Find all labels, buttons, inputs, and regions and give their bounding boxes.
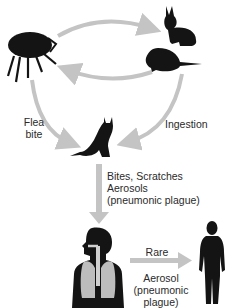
cat-icon [70, 117, 113, 157]
label-flea-bite-line1: Flea [19, 116, 49, 128]
label-rare: Rare [142, 246, 172, 258]
arrow-rodents-to-flea [68, 70, 152, 79]
rabbit-icon [164, 6, 196, 46]
arrow-cat-to-human [89, 164, 109, 224]
label-flea-bite-line2: bite [19, 128, 49, 140]
flea-icon [8, 32, 56, 82]
label-cat-to-human: Bites, Scratches Aerosols (pneumonic pla… [107, 170, 200, 206]
label-aerosol-line2: (pneumonic [132, 284, 190, 296]
rat-icon [146, 48, 202, 72]
arrow-ingestion-to-cat [128, 74, 182, 142]
label-aerosols: Aerosols [107, 182, 200, 194]
label-aerosol-line3: plague) [132, 296, 190, 308]
label-flea-bite: Flea bite [19, 116, 49, 140]
label-pneumonic-plague: (pneumonic plague) [107, 194, 200, 206]
human-silhouette-icon [199, 221, 225, 304]
label-ingestion: Ingestion [165, 118, 208, 130]
label-aerosol-line1: Aerosol [132, 272, 190, 284]
plague-cycle-diagram [0, 0, 230, 308]
human-respiratory-icon [72, 228, 124, 308]
label-aerosol: Aerosol (pneumonic plague) [132, 272, 190, 308]
arrow-flea-to-rodents [58, 22, 150, 36]
label-bites-scratches: Bites, Scratches [107, 170, 200, 182]
